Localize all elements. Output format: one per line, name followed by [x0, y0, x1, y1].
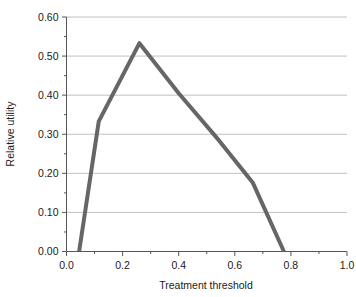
- y-tick-label: 0.10: [38, 206, 59, 218]
- y-axis-title: Relative utility: [4, 101, 16, 167]
- x-tick-label: 0.8: [284, 259, 299, 271]
- y-tick-label: 0.30: [38, 128, 59, 140]
- y-tick-label: 0.60: [38, 11, 59, 23]
- x-tick-label: 0.2: [115, 259, 130, 271]
- x-tick-label: 0.6: [227, 259, 242, 271]
- x-tick-label: 0.0: [59, 259, 74, 271]
- relative-utility-line-chart: 0.000.100.200.300.400.500.60 0.00.20.40.…: [0, 0, 356, 297]
- y-tick-label: 0.20: [38, 167, 59, 179]
- y-tick-label: 0.00: [38, 245, 59, 257]
- x-tick-label: 1.0: [340, 259, 355, 271]
- y-tick-label: 0.40: [38, 89, 59, 101]
- x-tick-label: 0.4: [171, 259, 186, 271]
- y-tick-label: 0.50: [38, 50, 59, 62]
- chart-container: 0.000.100.200.300.400.500.60 0.00.20.40.…: [0, 0, 356, 297]
- x-axis-title: Treatment threshold: [159, 279, 253, 291]
